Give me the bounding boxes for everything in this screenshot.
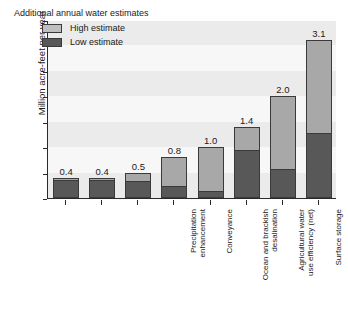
legend-swatch-low-icon [42, 38, 62, 47]
bar-slot[interactable]: 3.1 [301, 21, 336, 198]
bar[interactable]: 0.4 [89, 178, 115, 198]
legend-item-high: High estimate [42, 23, 149, 33]
legend-label-low: Low estimate [70, 37, 123, 47]
bar[interactable]: 0.8 [161, 157, 187, 198]
legend-swatch-high-icon [42, 24, 62, 33]
bar-low-segment [235, 150, 259, 197]
legend-label-high: High estimate [70, 23, 125, 33]
bar[interactable]: 1.0 [198, 147, 224, 198]
bar-slot[interactable]: 2.0 [265, 21, 301, 198]
bar-value-label: 2.0 [276, 84, 289, 95]
bar-value-label: 3.1 [312, 28, 325, 39]
bar-value-label: 0.4 [59, 166, 72, 177]
bar[interactable]: 0.5 [125, 173, 151, 198]
x-tick-mark [246, 200, 247, 205]
bar-low-segment [162, 186, 186, 197]
legend-item-low: Low estimate [42, 37, 149, 47]
bar-low-segment [54, 180, 78, 197]
y-tick-mark [43, 199, 47, 200]
bar-value-label: 0.8 [168, 145, 181, 156]
x-tick-label: Ocean and brackish desalination [262, 209, 280, 329]
bar-low-segment [271, 169, 295, 197]
bar-slot[interactable]: 1.0 [193, 21, 229, 198]
chart-figure: Million acre-feet per year 0.00.51.01.52… [0, 0, 348, 329]
bar-low-segment [199, 191, 223, 197]
x-tick-mark [101, 200, 102, 205]
x-tick-mark [282, 200, 283, 205]
bar-value-label: 0.5 [132, 161, 145, 172]
bar-value-label: 0.4 [96, 166, 109, 177]
bar[interactable]: 0.4 [53, 178, 79, 198]
bar[interactable]: 1.4 [234, 127, 260, 198]
bar-low-segment [307, 133, 331, 197]
x-tick-mark [137, 200, 138, 205]
bar-low-segment [126, 181, 150, 197]
bar-low-segment [90, 180, 114, 197]
bar-value-label: 1.0 [204, 135, 217, 146]
bar-value-label: 1.4 [240, 115, 253, 126]
x-tick-label: Agricultural water use efficiency (net) [298, 209, 316, 329]
x-tick-mark [318, 200, 319, 205]
legend-title: Additional annual water estimates [14, 8, 149, 18]
x-tick-mark [65, 200, 66, 205]
x-tick-label: Conveyance [226, 209, 235, 329]
bar[interactable]: 2.0 [270, 96, 296, 198]
bar-slot[interactable]: 0.8 [156, 21, 192, 198]
bar[interactable]: 3.1 [306, 40, 332, 198]
x-tick-label: Precipitation enhancement [190, 209, 208, 329]
x-tick-label: Surface storage [335, 209, 344, 329]
x-tick-mark [173, 200, 174, 205]
bar-slot[interactable]: 1.4 [229, 21, 265, 198]
x-tick-mark [210, 200, 211, 205]
chart-legend: Additional annual water estimates High e… [14, 8, 149, 51]
